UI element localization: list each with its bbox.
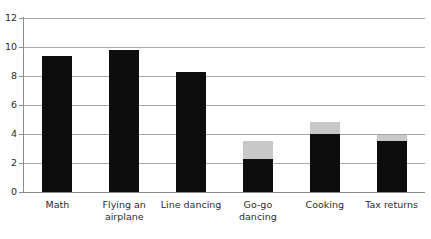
bar-slot — [42, 56, 72, 192]
x-axis-label: Line dancing — [158, 199, 225, 211]
gridline-12 — [24, 18, 425, 19]
x-axis-label-line: Cooking — [291, 199, 358, 211]
bar — [42, 56, 72, 192]
bar — [176, 72, 206, 192]
bar — [310, 122, 340, 192]
x-axis-label-line: Flying an — [91, 199, 158, 211]
bar-segment-primary — [42, 56, 72, 192]
bar-segment-secondary — [310, 122, 340, 134]
bar — [243, 141, 273, 192]
y-axis-label: 6 — [0, 100, 17, 110]
bar-segment-primary — [377, 141, 407, 192]
y-axis-label: 12 — [0, 13, 17, 23]
bar-slot — [109, 50, 139, 192]
bar-chart: 024681012 MathFlying anairplaneLine danc… — [0, 0, 431, 239]
x-axis-label: Cooking — [291, 199, 358, 211]
x-axis-label-line: airplane — [91, 211, 158, 223]
bar-segment-secondary — [243, 141, 273, 159]
y-axis-label: 0 — [0, 187, 17, 197]
bar-segment-primary — [243, 159, 273, 192]
bar-slot — [176, 72, 206, 192]
bar-slot — [310, 122, 340, 192]
bar — [377, 135, 407, 192]
x-axis-label-line: Go-go — [225, 199, 292, 211]
x-axis-label-line: Math — [24, 199, 91, 211]
y-axis-label: 8 — [0, 71, 17, 81]
gridline-0 — [24, 192, 425, 193]
chart-title-clipped — [0, 0, 431, 11]
x-axis-label: Tax returns — [358, 199, 425, 211]
x-axis-label: Math — [24, 199, 91, 211]
bar — [109, 50, 139, 192]
gridline-8 — [24, 76, 425, 77]
y-axis-label: 10 — [0, 42, 17, 52]
x-axis-label-line: dancing — [225, 211, 292, 223]
gridline-10 — [24, 47, 425, 48]
x-axis-label: Go-godancing — [225, 199, 292, 222]
y-axis-label: 2 — [0, 158, 17, 168]
x-axis-label-line: Tax returns — [358, 199, 425, 211]
bar-slot — [243, 141, 273, 192]
bar-segment-primary — [176, 72, 206, 192]
y-axis-label: 4 — [0, 129, 17, 139]
x-axis-label: Flying anairplane — [91, 199, 158, 222]
gridline-6 — [24, 105, 425, 106]
gridline-2 — [24, 163, 425, 164]
plot-area — [24, 18, 425, 192]
gridline-4 — [24, 134, 425, 135]
bar-slot — [377, 135, 407, 192]
bar-segment-primary — [310, 134, 340, 192]
bar-segment-primary — [109, 50, 139, 192]
x-axis-label-line: Line dancing — [158, 199, 225, 211]
